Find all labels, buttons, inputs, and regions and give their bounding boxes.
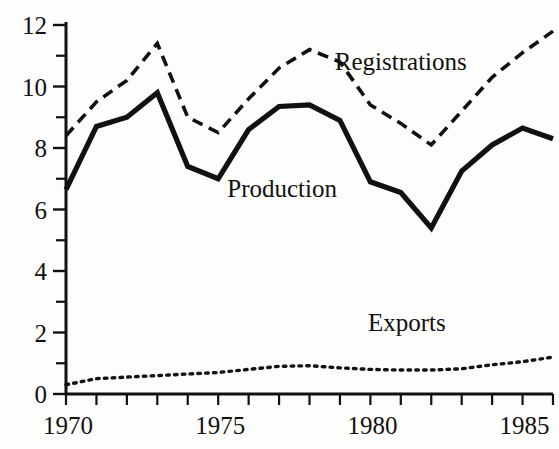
x-tick-label-1980: 1980 — [347, 412, 397, 439]
series-label-production: Production — [227, 175, 337, 202]
chart-series-labels: RegistrationsProductionExports — [227, 48, 467, 336]
y-tick-label-12: 12 — [22, 12, 47, 39]
y-tick-label-2: 2 — [35, 320, 48, 347]
series-label-exports: Exports — [368, 309, 446, 336]
y-tick-label-4: 4 — [35, 258, 48, 285]
series-label-registrations: Registrations — [335, 48, 467, 75]
y-tick-label-6: 6 — [35, 197, 48, 224]
line-chart: 024681012 1970197519801985 Registrations… — [0, 0, 559, 449]
y-axis-ticks — [53, 25, 66, 394]
y-axis-tick-labels: 024681012 — [22, 12, 48, 408]
series-line-registrations — [66, 31, 553, 145]
x-tick-label-1985: 1985 — [500, 412, 550, 439]
series-line-production — [66, 93, 553, 228]
y-tick-label-10: 10 — [22, 74, 47, 101]
y-tick-label-8: 8 — [35, 135, 48, 162]
x-tick-label-1970: 1970 — [43, 412, 93, 439]
series-line-exports — [66, 357, 553, 385]
y-tick-label-0: 0 — [35, 381, 48, 408]
x-tick-label-1975: 1975 — [195, 412, 245, 439]
chart-series-lines — [66, 31, 553, 385]
chart-axes — [66, 22, 553, 394]
x-axis-tick-labels: 1970197519801985 — [43, 412, 550, 439]
x-axis-ticks — [66, 394, 553, 405]
chart-container: 024681012 1970197519801985 Registrations… — [0, 0, 559, 449]
